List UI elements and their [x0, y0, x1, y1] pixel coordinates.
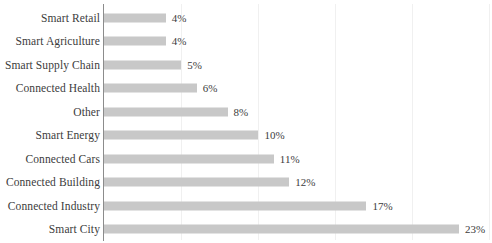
bar — [104, 178, 289, 187]
bar-value-label: 8% — [234, 106, 249, 118]
bar-value-label: 23% — [465, 223, 485, 235]
category-label: Connected Health — [16, 82, 100, 94]
category-label: Connected Building — [6, 176, 100, 188]
bar-value-label: 6% — [203, 82, 218, 94]
chart-row: Connected Cars11% — [0, 147, 492, 171]
bar-value-label: 12% — [295, 176, 315, 188]
bar-value-label: 10% — [264, 129, 284, 141]
chart-rows: Smart Retail4%Smart Agriculture4%Smart S… — [0, 0, 492, 243]
bar-value-label: 5% — [187, 59, 202, 71]
category-label: Connected Industry — [8, 200, 100, 212]
bar — [104, 154, 274, 163]
bar — [104, 225, 459, 234]
chart-row: Other8% — [0, 100, 492, 124]
horizontal-bar-chart: Smart Retail4%Smart Agriculture4%Smart S… — [0, 0, 492, 243]
chart-row: Connected Building12% — [0, 171, 492, 195]
chart-row: Smart Supply Chain5% — [0, 53, 492, 77]
bar-value-label: 4% — [172, 12, 187, 24]
bar — [104, 131, 258, 140]
chart-row: Smart Energy10% — [0, 124, 492, 148]
bar — [104, 13, 166, 22]
category-label: Smart Agriculture — [16, 35, 100, 47]
chart-row: Smart Retail4% — [0, 6, 492, 30]
bar-value-label: 17% — [372, 200, 392, 212]
bar — [104, 201, 366, 210]
chart-row: Connected Health6% — [0, 77, 492, 101]
bar — [104, 84, 197, 93]
chart-row: Smart City23% — [0, 218, 492, 242]
chart-row: Smart Agriculture4% — [0, 30, 492, 54]
category-label: Smart Retail — [41, 12, 100, 24]
bar — [104, 60, 181, 69]
category-label: Smart Supply Chain — [5, 59, 100, 71]
category-label: Smart City — [49, 223, 100, 235]
bar — [104, 107, 228, 116]
category-label: Connected Cars — [25, 153, 100, 165]
bar-value-label: 4% — [172, 35, 187, 47]
bar-value-label: 11% — [280, 153, 300, 165]
category-label: Other — [73, 106, 100, 118]
chart-row: Connected Industry17% — [0, 194, 492, 218]
bar — [104, 37, 166, 46]
category-label: Smart Energy — [35, 129, 100, 141]
